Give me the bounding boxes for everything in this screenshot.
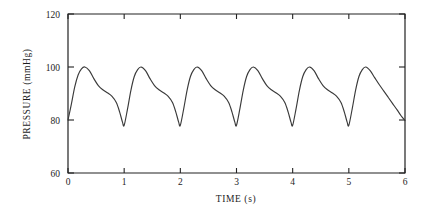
x-tick-label: 4 xyxy=(290,177,295,187)
x-axis-title: TIME (s) xyxy=(216,194,256,205)
x-tick-label: 5 xyxy=(346,177,351,187)
y-tick-label: 60 xyxy=(51,169,61,179)
x-tick-label: 0 xyxy=(66,177,71,187)
y-tick-label: 120 xyxy=(46,10,61,20)
chart-figure: 0123456 6080100120 TIME (s) PRESSURE (mm… xyxy=(0,0,422,211)
y-tick-labels: 6080100120 xyxy=(46,10,61,179)
x-tick-labels: 0123456 xyxy=(66,177,408,187)
x-tick-label: 1 xyxy=(122,177,127,187)
x-tick-label: 6 xyxy=(403,177,408,187)
x-tick-label: 2 xyxy=(178,177,183,187)
pressure-trace xyxy=(68,67,405,126)
y-axis-title: PRESSURE (mmHg) xyxy=(22,48,33,139)
y-tick-label: 100 xyxy=(46,63,61,73)
y-tick-label: 80 xyxy=(51,116,61,126)
x-tick-label: 3 xyxy=(234,177,239,187)
pressure-waveform-chart: 0123456 6080100120 TIME (s) PRESSURE (mm… xyxy=(0,0,422,211)
